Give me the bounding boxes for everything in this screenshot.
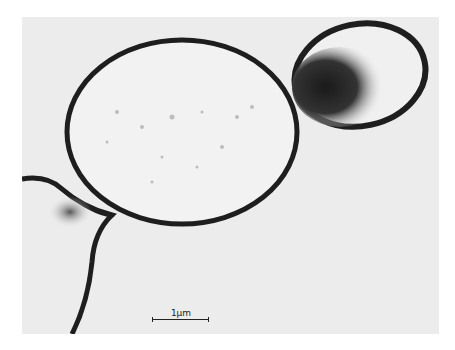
scale-bar-line [152, 319, 209, 320]
scale-bar-tick-right [208, 317, 209, 322]
cells-illustration [22, 17, 439, 334]
scale-bar: 1µm [152, 308, 210, 322]
scale-bar-label: 1µm [152, 308, 210, 318]
lower-left-cell [22, 178, 114, 334]
small-cell [285, 17, 435, 139]
large-cell [67, 40, 297, 224]
scale-bar-tick-left [152, 317, 153, 322]
micrograph [22, 17, 439, 334]
